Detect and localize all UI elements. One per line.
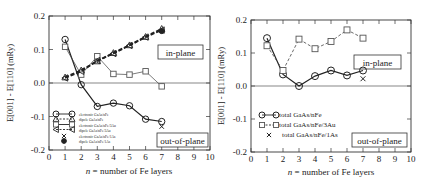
y-tick-label: 0.1 xyxy=(236,48,247,58)
out-of-plane-label: out-of-plane xyxy=(357,136,401,146)
in-plane-annotation: in-plane xyxy=(158,45,203,59)
x-marker-icon xyxy=(267,133,271,137)
legend-sample xyxy=(267,133,271,137)
square-marker-icon xyxy=(159,84,164,89)
square-marker-icon xyxy=(53,122,58,127)
square-marker-icon xyxy=(280,68,286,74)
x-label-text: = number of Fe layers xyxy=(292,167,374,177)
x-tick-label: 1 xyxy=(265,154,270,164)
right-data-series xyxy=(264,27,367,90)
left-data-series xyxy=(62,26,165,129)
x-tick-label: 1 xyxy=(63,152,68,162)
left-y-axis-label: E[001] - E[110] (mRy) xyxy=(5,44,15,122)
in-plane-annotation: in-plane xyxy=(354,55,401,69)
legend-entry: dipole GaAs/nFe xyxy=(79,118,104,122)
y-tick-label: -0.2 xyxy=(233,147,247,157)
left-chart: 0.2 0.1 0.0 -0.1 -0.2 0 1 2 3 4 5 6 7 8 … xyxy=(5,11,215,176)
x-tick-label: 5 xyxy=(127,152,132,162)
out-of-plane-annotation: out-of-plane xyxy=(157,133,208,147)
legend-entry: electronic GaAs/nFe/1As xyxy=(79,135,116,139)
right-chart: 0.2 0.1 0.0 -0.1 -0.2 0 1 2 3 4 5 6 7 8 … xyxy=(216,15,416,177)
square-marker-icon xyxy=(69,122,74,127)
left-legend: electronic GaAs/nFe dipole GaAs/nFe elec… xyxy=(53,111,116,144)
legend-entry: electronic GaAs/nFe/3Au xyxy=(79,124,116,128)
x-tick-label: 2 xyxy=(281,154,286,164)
square-marker-icon xyxy=(344,27,350,33)
legend-entry: total GaAs/nFe/3Au xyxy=(279,121,336,129)
in-plane-label: in-plane xyxy=(363,58,393,68)
x-tick-label: 6 xyxy=(143,152,148,162)
x-tick-label: 2 xyxy=(79,152,84,162)
x-tick-label: 10 xyxy=(206,152,216,162)
left-x-tick-labels: 0 1 2 3 4 5 6 7 8 9 10 xyxy=(47,152,215,162)
legend-sample xyxy=(62,139,67,144)
y-tick-label: -0.2 xyxy=(31,145,45,155)
x-tick-label: 9 xyxy=(192,152,197,162)
y-tick-label: 0.2 xyxy=(236,15,247,25)
left-y-tick-labels: 0.2 0.1 0.0 -0.1 -0.2 xyxy=(31,11,46,155)
in-plane-label: in-plane xyxy=(166,48,196,58)
x-tick-label: 9 xyxy=(393,154,398,164)
square-marker-icon xyxy=(259,122,264,127)
series-total-gaas-nfe xyxy=(264,35,367,90)
x-marker-icon xyxy=(361,76,366,81)
square-marker-icon xyxy=(328,38,334,44)
x-tick-label: 0 xyxy=(47,152,52,162)
square-marker-icon xyxy=(264,43,270,49)
legend-entry: dipole GaAs/nFe/3Au xyxy=(79,129,111,133)
right-legend: total GaAs/nFe total GaAs/nFe/3Au total … xyxy=(259,111,338,139)
legend-entry: electronic GaAs/nFe xyxy=(79,113,109,117)
square-marker-icon xyxy=(360,35,366,41)
x-tick-label: 4 xyxy=(313,154,318,164)
x-tick-label: 0 xyxy=(249,154,254,164)
legend-sample xyxy=(62,134,66,138)
series-dipole-gaas-nfe-1as xyxy=(159,29,164,34)
square-marker-icon xyxy=(296,36,302,42)
filled-star-marker-icon xyxy=(62,139,67,144)
legend-sample xyxy=(53,122,74,127)
right-y-tick-labels: 0.2 0.1 0.0 -0.1 -0.2 xyxy=(233,15,248,157)
square-marker-icon xyxy=(111,71,116,76)
left-x-axis-label: n = number of Fe layers xyxy=(86,166,173,176)
right-y-axis-label: E[001] - E[110] (mRy) xyxy=(216,47,226,125)
legend-sample xyxy=(259,112,279,118)
y-tick-label: 0.0 xyxy=(34,78,46,88)
series-total-gaas-nfe-1as xyxy=(361,76,366,81)
y-tick-label: -0.1 xyxy=(233,114,247,124)
legend-sample xyxy=(53,116,75,121)
y-tick-label: 0.2 xyxy=(34,11,45,21)
y-tick-label: -0.1 xyxy=(31,112,45,122)
x-tick-label: 5 xyxy=(329,154,334,164)
legend-entry: total GaAs/nFe/1As xyxy=(282,131,338,139)
out-of-plane-label: out-of-plane xyxy=(160,136,204,146)
x-marker-icon xyxy=(62,134,66,138)
x-tick-label: 6 xyxy=(345,154,350,164)
x-label-text: = number of Fe layers xyxy=(90,166,172,176)
square-marker-icon xyxy=(312,46,318,52)
x-tick-label: 8 xyxy=(176,152,181,162)
x-tick-label: 7 xyxy=(361,154,366,164)
series-electronic-gaas-nfe-3au xyxy=(62,44,164,89)
x-tick-label: 3 xyxy=(95,152,100,162)
right-x-tick-labels: 0 1 2 3 4 5 6 7 8 9 10 xyxy=(249,154,416,164)
x-tick-label: 4 xyxy=(111,152,116,162)
out-of-plane-annotation: out-of-plane xyxy=(352,133,407,147)
filled-star-marker-icon xyxy=(159,29,164,34)
x-tick-label: 7 xyxy=(159,152,164,162)
x-tick-label: 3 xyxy=(297,154,302,164)
square-marker-icon xyxy=(127,72,132,77)
y-tick-label: 0.0 xyxy=(236,81,248,91)
legend-sample xyxy=(259,122,278,127)
legend-entry: total GaAs/nFe xyxy=(279,111,322,119)
x-tick-label: 10 xyxy=(407,154,417,164)
square-marker-icon xyxy=(143,69,148,74)
right-x-axis-label: n = number of Fe layers xyxy=(288,167,375,177)
legend-entry: dipole GaAs/nFe/1As xyxy=(79,140,111,144)
square-marker-icon xyxy=(62,44,67,49)
square-marker-icon xyxy=(273,122,278,127)
y-tick-label: 0.1 xyxy=(34,45,45,55)
figure: 0.2 0.1 0.0 -0.1 -0.2 0 1 2 3 4 5 6 7 8 … xyxy=(0,0,433,187)
x-tick-label: 8 xyxy=(377,154,382,164)
